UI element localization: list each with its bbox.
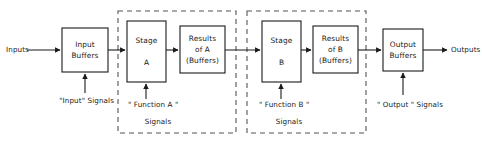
function-b-signals-label-line2: Signals [276,117,303,127]
output-buffers-label: Output Buffers [383,29,423,71]
stage-a-label: Stage A [127,21,166,82]
function-a-signals-label-line1: " Function A " [128,100,178,110]
inputs-label: Inputs [6,45,29,55]
input-buffers-label: Input Buffers [62,28,108,72]
function-a-signals-label-line2: Signals [145,117,172,127]
solid-boxes-group [62,21,423,82]
stage-b-label: Stage B [262,21,301,82]
results-of-a-label: Results of A (Buffers) [180,26,225,73]
results-of-b-label: Results of B (Buffers) [313,26,358,73]
input-signals-label: "Input" Signals [59,96,114,106]
outputs-label: Outputs [451,45,480,55]
diagram-vector-layer [0,0,482,146]
function-b-signals-label-line1: " Function B " [259,100,309,110]
output-signals-label: " Output " Signals [377,100,443,110]
diagram-canvas: Input Buffers Stage A Results of A (Buff… [0,0,482,146]
